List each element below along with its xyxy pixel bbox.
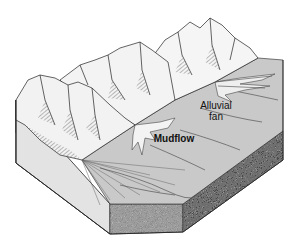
alluvial-fan-label: Alluvial fan: [196, 100, 236, 122]
alluvial-fan-label-line1: Alluvial: [196, 100, 236, 111]
alluvial-fan-label-line2: fan: [196, 111, 236, 122]
block-diagram: [0, 0, 298, 248]
mudflow-label: Mudflow: [152, 133, 196, 144]
gravel-front-face: [110, 204, 183, 234]
